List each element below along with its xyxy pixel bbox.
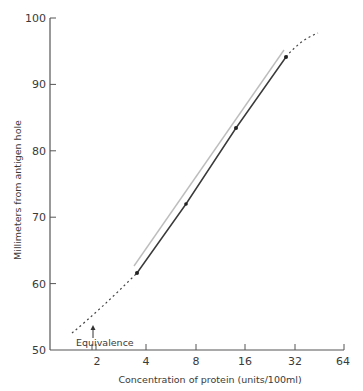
y-ticks bbox=[50, 18, 56, 284]
data-point bbox=[184, 202, 188, 206]
extrapolation-high-line bbox=[286, 33, 318, 57]
x-tick-32: 32 bbox=[288, 355, 302, 368]
x-tick-labels: 2 4 8 16 32 64 bbox=[94, 355, 351, 368]
data-point bbox=[284, 55, 288, 59]
y-tick-100: 100 bbox=[25, 12, 46, 25]
equivalence-label: Equivalence bbox=[76, 337, 134, 348]
chart: 100 90 80 70 60 50 2 4 8 16 32 64 Concen… bbox=[0, 0, 363, 391]
data-point bbox=[234, 126, 238, 130]
equivalence-annotation: Equivalence bbox=[76, 325, 134, 348]
measured-line bbox=[137, 57, 286, 273]
reference-line bbox=[134, 50, 284, 266]
x-tick-16: 16 bbox=[238, 355, 252, 368]
data-point bbox=[135, 271, 139, 275]
x-tick-8: 8 bbox=[193, 355, 200, 368]
x-tick-64: 64 bbox=[336, 355, 350, 368]
x-tick-2: 2 bbox=[94, 355, 101, 368]
y-tick-60: 60 bbox=[32, 278, 46, 291]
y-tick-70: 70 bbox=[32, 211, 46, 224]
x-tick-4: 4 bbox=[143, 355, 150, 368]
extrapolation-low-line bbox=[72, 273, 137, 333]
arrowhead-icon bbox=[91, 325, 96, 330]
y-tick-80: 80 bbox=[32, 145, 46, 158]
y-tick-90: 90 bbox=[32, 78, 46, 91]
y-axis-label: Millimeters from antigen hole bbox=[12, 120, 23, 260]
y-tick-50: 50 bbox=[32, 344, 46, 357]
x-axis-label: Concentration of protein (units/100ml) bbox=[118, 374, 301, 385]
y-tick-labels: 100 90 80 70 60 50 bbox=[25, 12, 46, 357]
